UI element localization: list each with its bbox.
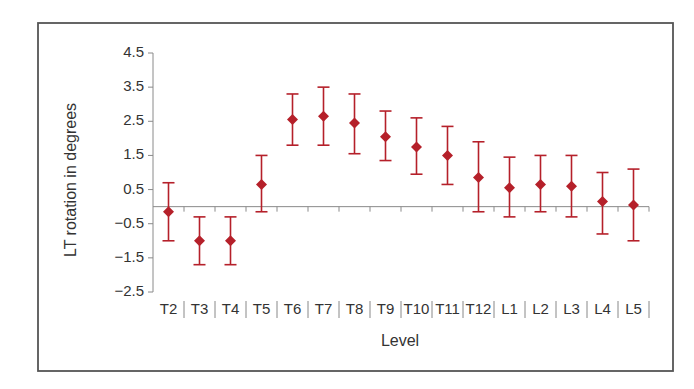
x-tick-label: L3: [563, 300, 580, 317]
x-axis-title: Level: [381, 332, 419, 349]
x-tick-label: L4: [594, 300, 611, 317]
data-point: [349, 94, 361, 154]
x-tick-label: T9: [377, 300, 395, 317]
x-tick-label: L2: [532, 300, 549, 317]
diamond-marker-icon: [349, 117, 360, 128]
diamond-marker-icon: [504, 182, 515, 193]
x-tick-label: T6: [284, 300, 302, 317]
diamond-marker-icon: [597, 196, 608, 207]
diamond-marker-icon: [442, 150, 453, 161]
diamond-marker-icon: [628, 199, 639, 210]
diamond-marker-icon: [473, 172, 484, 183]
data-series: [163, 87, 640, 265]
y-tick-label: 4.5: [123, 43, 144, 60]
data-point: [566, 155, 578, 216]
x-tick-label: T3: [191, 300, 209, 317]
x-tick-label: T11: [435, 300, 460, 317]
diamond-marker-icon: [318, 111, 329, 122]
x-tick-label: L1: [501, 300, 518, 317]
data-point: [442, 126, 454, 184]
x-tick-label: T5: [253, 300, 271, 317]
x-tick-label: T10: [404, 300, 430, 317]
data-point: [225, 217, 237, 265]
x-tick-label: T8: [346, 300, 364, 317]
diamond-marker-icon: [225, 235, 236, 246]
diamond-marker-icon: [380, 131, 391, 142]
data-point: [411, 118, 423, 174]
y-axis-title: LT rotation in degrees: [62, 103, 79, 257]
x-tick-label: T12: [466, 300, 492, 317]
y-axis: 4.53.52.51.50.5−0.5−1.5−2.5: [114, 43, 153, 299]
data-point: [535, 155, 547, 211]
y-tick-label: −0.5: [114, 214, 144, 231]
diamond-marker-icon: [287, 114, 298, 125]
diamond-marker-icon: [535, 179, 546, 190]
y-tick-label: 1.5: [123, 145, 144, 162]
data-point: [473, 142, 485, 212]
diamond-marker-icon: [194, 235, 205, 246]
chart-figure: 4.53.52.51.50.5−0.5−1.5−2.5 T2T3T4T5T6T7…: [0, 0, 694, 389]
x-axis-tick-labels: T2T3T4T5T6T7T8T9T10T11T12L1L2L3L4L5: [160, 300, 649, 318]
data-point: [380, 111, 392, 161]
data-point: [256, 155, 268, 211]
data-point: [163, 183, 175, 241]
y-tick-label: −1.5: [114, 248, 144, 265]
x-tick-label: T2: [160, 300, 178, 317]
y-tick-label: 3.5: [123, 77, 144, 94]
diamond-marker-icon: [163, 206, 174, 217]
y-tick-label: 0.5: [123, 180, 144, 197]
y-tick-label: 2.5: [123, 111, 144, 128]
data-point: [504, 157, 516, 217]
diamond-marker-icon: [566, 181, 577, 192]
x-tick-label: L5: [625, 300, 642, 317]
x-axis: [153, 207, 649, 212]
diamond-marker-icon: [256, 179, 267, 190]
y-tick-label: −2.5: [114, 282, 144, 299]
x-tick-label: T4: [222, 300, 240, 317]
data-point: [597, 173, 609, 234]
data-point: [318, 87, 330, 145]
data-point: [194, 217, 206, 265]
diamond-marker-icon: [411, 141, 422, 152]
data-point: [628, 169, 640, 241]
data-point: [287, 94, 299, 145]
chart-frame: [38, 23, 673, 371]
x-tick-label: T7: [315, 300, 333, 317]
